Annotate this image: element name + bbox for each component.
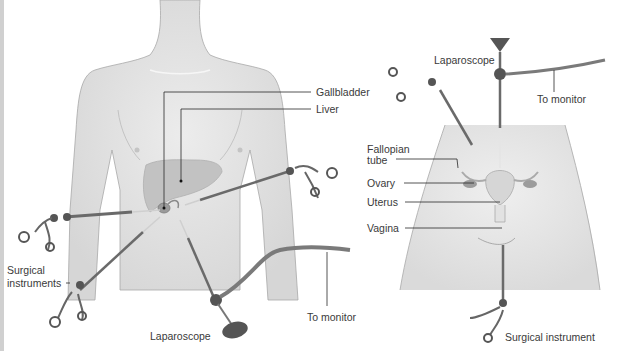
label-surgical-instrument: Surgical instrument (505, 331, 595, 343)
label-to-monitor-left: To monitor (307, 311, 356, 323)
label-laparoscope-left: Laparoscope (150, 330, 211, 342)
laparoscopy-illustration (0, 0, 618, 351)
frame-edge (0, 0, 4, 351)
label-surgical-instruments-line1: Surgical (7, 264, 45, 276)
label-liver: Liver (316, 103, 339, 115)
label-fallopian-tube-line2: tube (367, 154, 387, 166)
label-laparoscope-right: Laparoscope (434, 54, 495, 66)
label-to-monitor-right: To monitor (537, 93, 586, 105)
label-vagina: Vagina (367, 222, 399, 234)
torso-figure (68, 0, 298, 300)
label-surgical-instruments-line2: instruments (7, 277, 61, 289)
label-ovary: Ovary (367, 177, 395, 189)
label-uterus: Uterus (367, 196, 398, 208)
label-gallbladder: Gallbladder (316, 86, 370, 98)
